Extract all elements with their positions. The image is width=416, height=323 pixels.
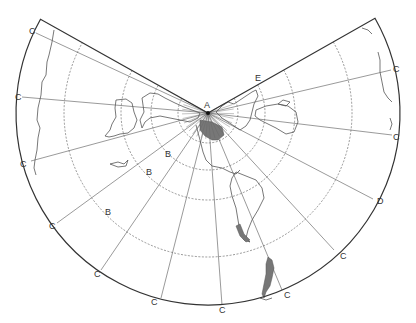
label-c: C bbox=[94, 269, 101, 279]
meridian-line bbox=[208, 70, 391, 113]
parallels-dashed bbox=[64, 42, 352, 257]
label-a: A bbox=[204, 100, 210, 110]
meridian-lines bbox=[22, 33, 392, 305]
label-c: C bbox=[49, 221, 56, 231]
label-c: C bbox=[340, 251, 347, 261]
point-labels: ABBBCCCCCCCCCCCDE bbox=[15, 26, 400, 315]
label-d: D bbox=[377, 196, 384, 206]
label-c: C bbox=[393, 132, 400, 142]
parallel-line bbox=[64, 42, 352, 257]
meridian-line bbox=[208, 113, 334, 250]
label-b: B bbox=[146, 167, 152, 177]
label-c: C bbox=[151, 297, 158, 307]
label-c: C bbox=[15, 92, 22, 102]
label-c: C bbox=[20, 159, 27, 169]
label-c: C bbox=[219, 305, 226, 315]
meridian-line bbox=[161, 113, 208, 298]
label-e: E bbox=[255, 73, 261, 83]
label-c: C bbox=[393, 64, 400, 74]
label-b: B bbox=[105, 207, 111, 217]
label-b: B bbox=[165, 149, 171, 159]
meridian-line bbox=[208, 113, 373, 199]
meridian-line bbox=[208, 113, 392, 135]
coastlines bbox=[34, 28, 392, 300]
label-c: C bbox=[284, 290, 291, 300]
conic-projection-map: ABBBCCCCCCCCCCCDE bbox=[0, 0, 416, 323]
apex-point bbox=[206, 111, 210, 115]
label-c: C bbox=[29, 26, 36, 36]
